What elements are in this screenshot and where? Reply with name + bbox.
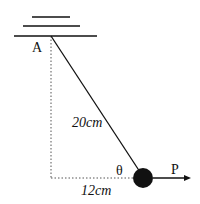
pendulum-bob: [133, 168, 153, 188]
pendulum-string: [51, 36, 140, 172]
distance-label: 12cm: [81, 183, 111, 198]
force-label: P: [171, 162, 179, 177]
pivot-label: A: [32, 40, 43, 55]
ceiling-support: [14, 17, 97, 36]
length-label: 20cm: [72, 115, 102, 130]
angle-label: θ: [116, 163, 123, 178]
pendulum-diagram: A 20cm 12cm θ P: [0, 0, 200, 204]
